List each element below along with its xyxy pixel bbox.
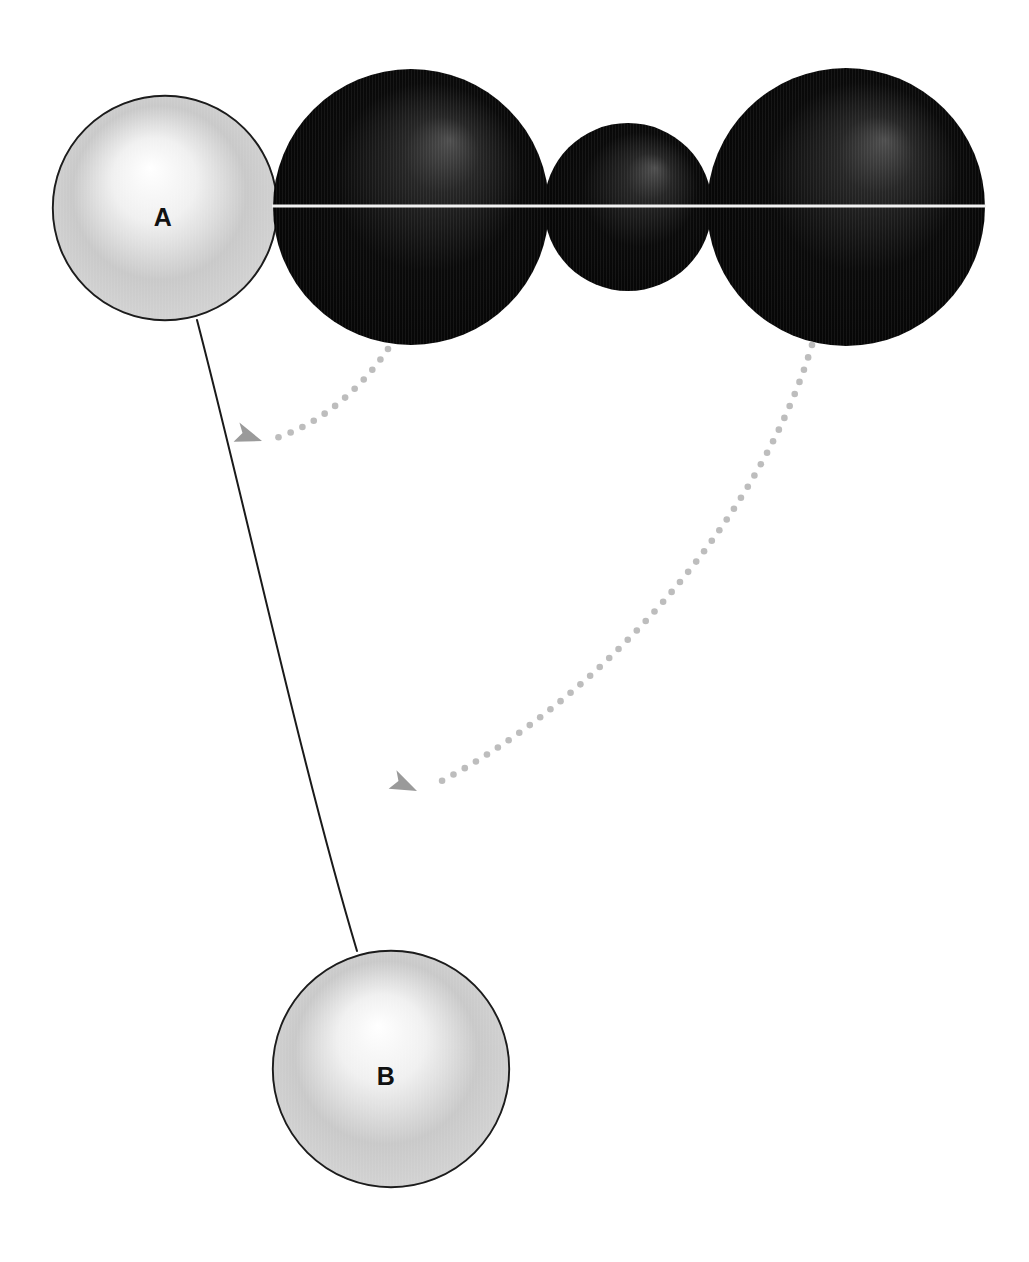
dotted-arrow-to-dark-large-left-head [234,423,266,450]
sphere-layer [52,68,985,1188]
dotted-arrow-to-dark-large-left-guide [276,349,388,438]
dotted-arrow-to-dark-large-right[interactable] [389,342,816,800]
dotted-arrow-to-dark-large-right-head [389,770,422,799]
dotted-arrow-to-dark-large-left-dots [275,346,391,441]
sphere-diagram-svg [0,0,1029,1262]
diagram-canvas: AB [0,0,1029,1262]
arrow-layer [234,342,816,800]
sphere-a-light[interactable] [52,95,278,321]
sphere-b-light[interactable] [272,950,510,1188]
dotted-arrow-to-dark-large-left[interactable] [234,346,392,450]
dotted-arrow-to-dark-large-right-dots [439,342,816,784]
connector-a-to-b [197,320,357,951]
connector-layer [197,320,357,951]
dotted-arrow-to-dark-large-right-guide [434,345,812,785]
